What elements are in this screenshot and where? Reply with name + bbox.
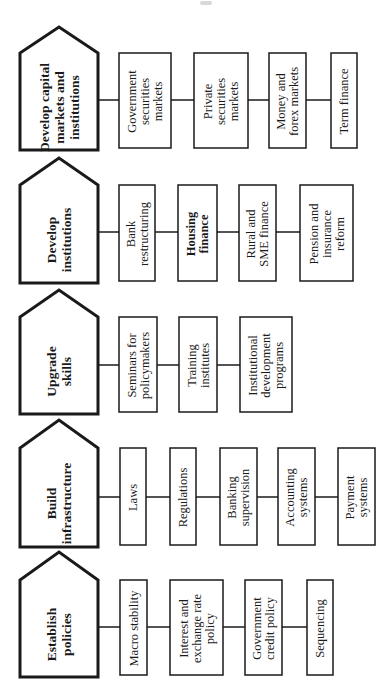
item-label-line: securities [138, 78, 152, 125]
item-label-line: Term finance [337, 68, 351, 135]
item-label-line: Money and [274, 72, 288, 129]
pillar-title-line: skills [59, 357, 74, 386]
pillar-title-line: Develop [44, 217, 59, 264]
pillar-title-line: markets and [52, 71, 67, 144]
item-label: Sequencing [313, 599, 327, 658]
item-label-line: SME finance [257, 201, 271, 267]
item-label-line: supervision [238, 468, 252, 526]
item-box: Privatesecuritiesmarkets [194, 53, 248, 148]
item-box: Seminars forpolicymakers [119, 317, 157, 412]
item-label-line: development [259, 333, 273, 398]
item-label-line: securities [214, 78, 228, 125]
pillar-title-line: infrastructure [59, 463, 74, 544]
item-box: Governmentcredit policy [245, 580, 282, 675]
item-label-line: Training [185, 343, 199, 386]
item-label: Institutionaldevelopmentprograms [246, 333, 286, 398]
item-label: Housingfinance [184, 211, 211, 256]
pillar-group: EstablishpoliciesMacro stabilityInterest… [20, 552, 333, 677]
item-label: Money andforex markets [274, 67, 301, 136]
item-label-line: forex markets [287, 67, 301, 136]
item-label-line: Housing [184, 211, 198, 256]
item-label-line: systems [356, 478, 370, 518]
item-label: Term finance [337, 68, 351, 135]
pillar-title-line: Build [44, 487, 59, 519]
item-label-line: Regulations [176, 468, 190, 528]
pillar-diagram: Develop capitalmarkets andinstitutionsGo… [0, 0, 391, 689]
item-label-line: reform [333, 217, 347, 251]
item-label-line: exchange rate [190, 594, 204, 664]
pillar-title: Develop capitalmarkets andinstitutions [37, 63, 82, 152]
item-label-line: institutes [198, 343, 212, 388]
pillar-group: UpgradeskillsSeminars forpolicymakersTra… [20, 290, 292, 414]
item-box: Macro stability [120, 580, 147, 675]
item-box: Laws [120, 448, 146, 545]
item-label: Paymentsystems [343, 475, 370, 519]
item-box: Traininginstitutes [179, 317, 217, 412]
item-label-line: Banking [225, 476, 239, 519]
pillar-group: BuildinfrastructureLawsRegulationsBankin… [20, 420, 375, 547]
item-label-line: Government [125, 70, 139, 133]
item-label: Bankingsupervision [225, 468, 252, 526]
item-label: Privatesecuritiesmarkets [201, 78, 241, 125]
item-label-line: programs [272, 342, 286, 389]
item-label-line: insurance [320, 210, 334, 258]
item-label: Laws [126, 484, 140, 511]
pillar-title-line: policies [59, 613, 74, 656]
item-label-line: credit policy [263, 596, 277, 660]
item-label-line: Sequencing [313, 599, 327, 658]
item-label-line: Pension and [307, 203, 321, 265]
pillar-head-shape [20, 290, 98, 414]
item-label-line: Laws [126, 484, 140, 511]
item-label-line: Macro stability [127, 590, 141, 667]
item-label-line: markets [227, 82, 241, 122]
item-label-line: finance [197, 214, 211, 253]
item-box: Institutionaldevelopmentprograms [240, 317, 292, 412]
item-box: Governmentsecuritiesmarkets [119, 53, 171, 148]
item-label-line: policy [203, 612, 217, 644]
pillar-group: DevelopinstitutionsBankrestructuringHous… [20, 158, 353, 283]
item-label-line: Institutional [246, 335, 260, 396]
item-label-line: Payment [343, 475, 357, 519]
item-label-line: policymakers [138, 332, 152, 399]
item-label-line: Seminars for [125, 333, 139, 398]
item-label: Macro stability [127, 590, 141, 667]
item-box: Bankingsupervision [220, 448, 257, 545]
item-label-line: Rural and [244, 209, 258, 259]
pillar-title-line: Upgrade [44, 346, 59, 396]
item-box: Money andforex markets [269, 53, 306, 148]
item-label-line: Interest and [177, 598, 191, 657]
item-box: Paymentsystems [338, 448, 375, 545]
item-box: Rural andSME finance [239, 185, 276, 281]
pillar-title: Developinstitutions [44, 208, 74, 273]
item-box: Pension andinsurancereform [300, 185, 353, 281]
item-label-line: Government [250, 597, 264, 660]
pillar-title-line: institutions [59, 208, 74, 273]
pillar-group: Develop capitalmarkets andinstitutionsGo… [20, 27, 357, 152]
item-label: Traininginstitutes [185, 343, 212, 388]
item-box: Housingfinance [178, 185, 217, 281]
item-label: Governmentcredit policy [250, 596, 277, 660]
pillar-title: Establishpolicies [44, 607, 74, 661]
item-label-line: Private [201, 83, 215, 119]
item-label: Regulations [176, 468, 190, 528]
pillar-title-line: Develop capital [37, 63, 52, 152]
item-label-line: Accounting [283, 468, 297, 527]
item-label-line: Bank [124, 220, 138, 247]
item-box: Sequencing [307, 580, 333, 675]
item-label-line: restructuring [137, 201, 151, 266]
item-box: Term finance [331, 53, 357, 148]
pillar-title-line: institutions [67, 75, 82, 140]
item-box: Accountingsystems [278, 448, 315, 545]
item-label: Seminars forpolicymakers [125, 332, 152, 399]
item-label-line: systems [296, 478, 310, 518]
item-label-line: markets [151, 82, 165, 122]
item-box: Regulations [170, 448, 196, 545]
item-label: Rural andSME finance [244, 201, 271, 267]
item-box: Interest andexchange ratepolicy [170, 580, 223, 675]
item-box: Bankrestructuring [119, 185, 155, 281]
pillar-title-line: Establish [44, 607, 59, 661]
